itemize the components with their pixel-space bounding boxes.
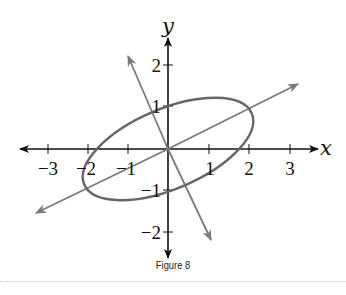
x-tick-label: 1 [205,158,215,179]
y-tick-label: −1 [141,180,161,201]
divider [0,281,346,282]
y-tick-label: 1 [152,96,162,117]
x-tick-label: −3 [38,158,58,179]
coordinate-plane: −3 −2 −1 1 2 3 2 1 −1 −2 x y [0,0,346,295]
x-axis-label: x [320,136,332,160]
y-tick-label: 2 [152,55,162,76]
figure-caption: Figure 8 [26,259,320,271]
x-tick-label: 3 [285,158,295,179]
y-tick-label: −2 [141,222,161,243]
x-tick-label: 2 [244,158,254,179]
x-tick-label: −2 [76,158,96,179]
x-tick-labels: −3 −2 −1 1 2 3 [38,158,295,179]
y-axis-label: y [161,14,175,38]
x-tick-label: −1 [116,158,136,179]
figure-8: −3 −2 −1 1 2 3 2 1 −1 −2 x y Figure 8 [0,0,346,295]
